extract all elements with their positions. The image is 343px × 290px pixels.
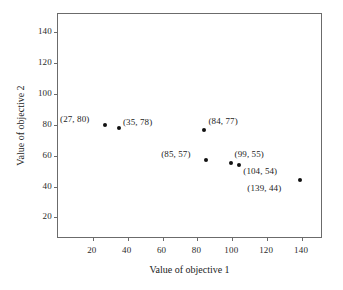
data-point [204,158,208,162]
data-point-label: (27, 80) [60,114,89,124]
x-tick-label: 60 [157,245,166,255]
y-tick-mark [54,32,58,33]
x-tick-label: 140 [294,245,308,255]
data-point-label: (104, 54) [243,166,277,176]
x-tick-label: 100 [224,245,238,255]
y-tick-mark [54,94,58,95]
data-point-label: (35, 78) [123,117,152,127]
y-tick-mark [54,187,58,188]
y-tick-label: 140 [28,26,52,36]
y-tick-label: 100 [28,88,52,98]
data-point [202,128,206,132]
y-tick-mark [54,156,58,157]
y-tick-label: 80 [28,119,52,129]
x-tick-mark [197,237,198,241]
data-point [229,161,233,165]
data-point [103,123,107,127]
x-tick-mark [163,237,164,241]
x-tick-mark [128,237,129,241]
y-tick-label: 120 [28,57,52,67]
x-tick-label: 120 [259,245,273,255]
data-point-label: (85, 57) [161,149,190,159]
y-tick-mark [54,125,58,126]
data-point [298,178,302,182]
data-point [117,126,121,130]
y-tick-label: 20 [28,211,52,221]
y-axis-title: Value of objective 2 [14,13,28,238]
x-tick-label: 40 [122,245,131,255]
data-point-label: (84, 77) [208,116,237,126]
scatter-plot-figure: 20406080100120140 20406080100120140 (27,… [0,0,343,290]
data-point [237,163,241,167]
x-tick-mark [232,237,233,241]
data-point-label: (99, 55) [235,149,264,159]
x-tick-label: 20 [87,245,96,255]
y-tick-label: 40 [28,181,52,191]
x-tick-mark [267,237,268,241]
x-tick-label: 80 [192,245,201,255]
plot-area [57,13,322,238]
x-tick-mark [302,237,303,241]
y-tick-label: 60 [28,150,52,160]
data-point-label: (139, 44) [247,183,281,193]
x-tick-mark [93,237,94,241]
y-tick-mark [54,63,58,64]
y-tick-mark [54,217,58,218]
x-axis-title: Value of objective 1 [57,264,322,275]
